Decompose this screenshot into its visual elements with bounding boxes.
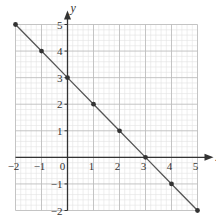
x-tick-label: 1 bbox=[89, 160, 95, 172]
y-tick-label: −1 bbox=[51, 178, 63, 190]
line-chart: −2−1012345−2−112345 x y bbox=[0, 0, 216, 224]
data-point-marker bbox=[65, 75, 70, 80]
x-axis-label: x bbox=[215, 150, 217, 164]
y-tick-label: 5 bbox=[57, 19, 63, 31]
data-point-marker bbox=[117, 128, 122, 133]
y-tick-label: 3 bbox=[57, 72, 63, 84]
x-tick-label: 2 bbox=[115, 160, 121, 172]
data-point-marker bbox=[39, 49, 44, 54]
data-point-marker bbox=[143, 155, 148, 160]
x-axis-arrow-icon bbox=[205, 154, 214, 161]
x-tick-label: 3 bbox=[141, 160, 147, 172]
y-tick-label: 1 bbox=[57, 125, 63, 137]
y-tick-label: 2 bbox=[57, 98, 63, 110]
data-point-marker bbox=[169, 182, 174, 187]
x-tick-label: −1 bbox=[34, 160, 46, 172]
x-tick-label: 0 bbox=[60, 160, 66, 172]
y-axis-label: y bbox=[70, 1, 77, 15]
x-tick-label: 4 bbox=[167, 160, 173, 172]
data-point-marker bbox=[195, 208, 200, 213]
x-tick-label: 5 bbox=[193, 160, 199, 172]
data-point-marker bbox=[13, 22, 18, 27]
x-tick-label: −2 bbox=[8, 160, 20, 172]
y-tick-label: 4 bbox=[57, 45, 63, 57]
y-tick-label: −2 bbox=[51, 205, 63, 217]
data-point-marker bbox=[91, 102, 96, 107]
